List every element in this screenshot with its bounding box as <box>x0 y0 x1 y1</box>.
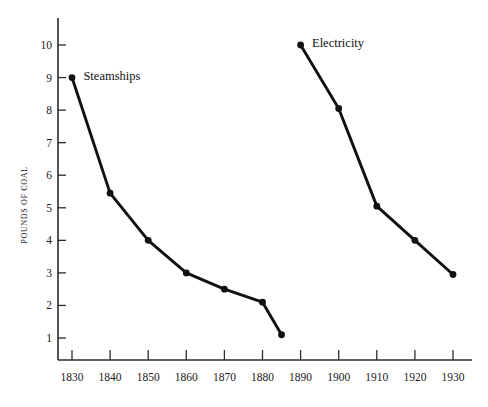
y-tick-label: 10 <box>41 39 53 51</box>
data-point-marker <box>278 331 285 338</box>
x-tick-label: 1850 <box>137 371 160 383</box>
x-tick-label: 1920 <box>403 371 426 383</box>
series-annotations: SteamshipsElectricity <box>83 36 364 83</box>
x-tick-label: 1870 <box>213 371 236 383</box>
data-point-marker <box>69 74 76 81</box>
x-tick-label: 1860 <box>175 371 198 383</box>
line-chart: 12345678910 1830184018501860187018801890… <box>0 0 488 407</box>
x-tick-label: 1830 <box>61 371 84 383</box>
y-tick-label: 2 <box>46 299 52 311</box>
data-point-marker <box>335 105 342 112</box>
data-series-group <box>69 42 457 339</box>
y-tick-label: 7 <box>46 137 52 149</box>
data-point-marker <box>145 237 152 244</box>
data-point-marker <box>259 299 266 306</box>
data-point-marker <box>412 237 419 244</box>
x-tick-label: 1930 <box>442 371 465 383</box>
data-point-marker <box>373 203 380 210</box>
y-tick-label: 8 <box>46 104 52 116</box>
y-axis-ticks: 12345678910 <box>41 39 67 344</box>
x-tick-label: 1890 <box>289 371 312 383</box>
y-tick-label: 5 <box>46 202 52 214</box>
series-line-steamships <box>72 78 282 335</box>
y-axis-title: POUNDS OF COAL <box>20 166 29 243</box>
chart-container: 12345678910 1830184018501860187018801890… <box>0 0 488 407</box>
y-tick-label: 3 <box>46 267 52 279</box>
data-point-marker <box>221 286 228 293</box>
y-tick-label: 6 <box>46 169 52 181</box>
y-tick-label: 1 <box>46 332 52 344</box>
x-axis-ticks: 1830184018501860187018801890190019101920… <box>61 350 465 383</box>
x-tick-label: 1840 <box>99 371 122 383</box>
y-tick-label: 9 <box>46 72 52 84</box>
x-tick-label: 1880 <box>251 371 274 383</box>
data-point-marker <box>297 42 304 49</box>
data-point-marker <box>450 271 457 278</box>
data-point-marker <box>107 190 114 197</box>
series-label-steamships: Steamships <box>83 69 140 83</box>
y-tick-label: 4 <box>46 234 52 246</box>
x-tick-label: 1900 <box>327 371 350 383</box>
data-point-marker <box>183 269 190 276</box>
x-tick-label: 1910 <box>365 371 388 383</box>
series-line-electricity <box>301 45 453 275</box>
series-label-electricity: Electricity <box>312 36 365 50</box>
